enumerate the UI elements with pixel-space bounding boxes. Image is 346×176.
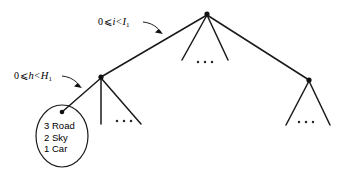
leaf-item-rank: 2: [44, 132, 52, 144]
ellipsis-right-subtree: [298, 121, 315, 124]
edge-left-child-to-third: [101, 78, 141, 124]
leaf-item-rank: 3: [44, 120, 52, 132]
ellipsis-middle: [197, 61, 214, 64]
leaf-label-list: 3Road 2Sky 1Car: [44, 120, 75, 155]
leaf-node-dot: [60, 110, 65, 115]
right-child-node: [306, 77, 311, 82]
h-range-pointer: [62, 76, 82, 88]
edge-right-child-to-first: [286, 81, 309, 125]
leaf-item-rank: 1: [44, 143, 52, 155]
h-range-lt-operator: <: [34, 70, 41, 81]
leaf-list-item: 3Road: [44, 120, 75, 132]
i-range-pointer: [143, 22, 163, 34]
h-range-arrowhead: [74, 83, 82, 88]
i-range-arrowhead: [155, 29, 163, 34]
right-child-edges: [286, 81, 330, 125]
ellipsis-left-subtree: [116, 120, 133, 123]
h-range-bound-subscript: 1: [49, 75, 53, 83]
edge-left-child-to-leaf-ellipse: [62, 78, 101, 112]
tree-diagram-figure: 0⩽i<I1 0⩽h<H1 3Road 2Sky 1Car: [0, 0, 346, 176]
left-child-node: [98, 74, 103, 79]
leaf-item-label: Sky: [52, 132, 68, 143]
root-node: [204, 11, 209, 16]
index-range-label-i: 0⩽i<I1: [98, 17, 130, 29]
leaf-list-item: 1Car: [44, 143, 75, 155]
i-range-bound-subscript: 1: [126, 21, 130, 29]
root-edges: [101, 15, 309, 80]
left-child-edges: [62, 78, 141, 124]
edge-right-child-to-second: [309, 81, 330, 125]
index-range-label-h: 0⩽h<H1: [14, 71, 52, 83]
leaf-item-label: Car: [52, 143, 67, 154]
leaf-list-item: 2Sky: [44, 132, 75, 144]
leaf-item-label: Road: [52, 120, 75, 131]
h-range-bound: H: [41, 70, 49, 81]
